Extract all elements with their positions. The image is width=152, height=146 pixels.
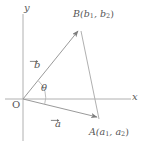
point-b-label: B(b1, b2) — [73, 9, 114, 20]
x-axis-label: x — [132, 92, 138, 102]
point-b-close: ) — [110, 8, 114, 19]
vector-b-line — [23, 31, 78, 99]
segment-BA — [81, 31, 99, 119]
point-b-mid: , b — [94, 8, 106, 19]
point-a-close: ) — [125, 126, 129, 137]
y-axis-label: y — [24, 3, 30, 13]
point-a-text: A(a — [89, 126, 105, 137]
point-a-label: A(a1, a2) — [89, 127, 129, 138]
point-b-text: B(b — [73, 8, 90, 19]
angle-theta-label: θ — [41, 83, 47, 93]
vector-b-label: b — [34, 59, 40, 70]
vector-a-line — [23, 99, 97, 117]
vector-diagram: y x O θ B(b1, b2) A(a1, a2) b a — [0, 0, 152, 146]
point-a-mid: , a — [109, 126, 121, 137]
vector-a-arrow-icon — [51, 118, 60, 122]
diagram-canvas — [0, 0, 152, 146]
origin-label: O — [12, 100, 20, 110]
vector-b-arrow-icon — [30, 59, 39, 63]
vector-a-label: a — [55, 118, 61, 129]
